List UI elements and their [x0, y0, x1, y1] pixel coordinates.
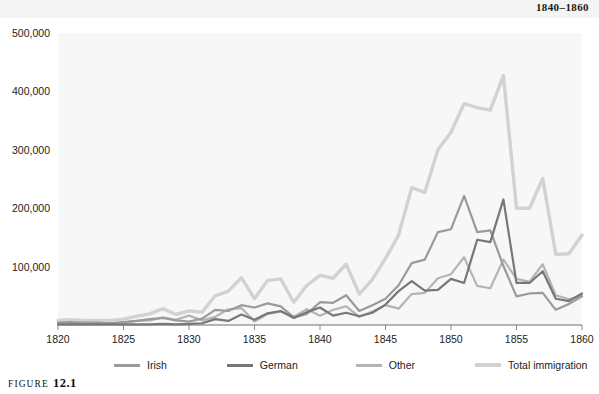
legend-item[interactable]: Total immigration — [475, 359, 587, 371]
legend-item[interactable]: Other — [356, 359, 415, 371]
figure-caption-number: 12.1 — [53, 376, 77, 390]
figure-page: 1840–1860 100,000200,000300,000400,00050… — [0, 0, 599, 394]
legend-item-label: Irish — [147, 359, 167, 371]
chart-canvas: 100,000200,000300,000400,000500,000 1820… — [0, 18, 599, 358]
y-axis-ticks: 100,000200,000300,000400,000500,000 — [12, 27, 50, 273]
legend-item-label: German — [260, 359, 298, 371]
x-axis-tick-label: 1845 — [374, 333, 398, 345]
legend-item-label: Other — [389, 359, 415, 371]
legend-swatch-icon — [475, 363, 501, 367]
x-axis-tick-label: 1855 — [505, 333, 529, 345]
running-header-band — [0, 0, 599, 18]
figure-caption: Figure12.1 — [8, 376, 77, 391]
x-axis-tick-label: 1820 — [46, 333, 70, 345]
x-axis-tick-label: 1860 — [570, 333, 594, 345]
legend-item[interactable]: Irish — [114, 359, 167, 371]
legend-swatch-icon — [114, 364, 140, 367]
x-axis-tick-label: 1830 — [177, 333, 201, 345]
x-axis-tick-label: 1840 — [308, 333, 332, 345]
legend-item-label: Total immigration — [508, 359, 587, 371]
x-axis-tick-label: 1825 — [112, 333, 136, 345]
legend-swatch-icon — [227, 364, 253, 367]
running-header-title: 1840–1860 — [536, 1, 589, 13]
y-axis-tick-label: 500,000 — [12, 27, 50, 39]
immigration-line-chart: 100,000200,000300,000400,000500,000 1820… — [0, 18, 599, 358]
y-axis-tick-label: 400,000 — [12, 85, 50, 97]
x-axis-tick-label: 1850 — [439, 333, 463, 345]
y-axis-tick-label: 300,000 — [12, 144, 50, 156]
x-axis-ticks: 182018251830183518401845185018551860 — [46, 325, 594, 345]
y-axis-tick-label: 100,000 — [12, 261, 50, 273]
legend-item[interactable]: German — [227, 359, 298, 371]
figure-caption-word: Figure — [8, 379, 49, 389]
x-axis-tick-label: 1835 — [243, 333, 267, 345]
legend-swatch-icon — [356, 364, 382, 367]
y-axis-tick-label: 200,000 — [12, 202, 50, 214]
chart-legend: IrishGermanOtherTotal immigration — [58, 356, 582, 374]
